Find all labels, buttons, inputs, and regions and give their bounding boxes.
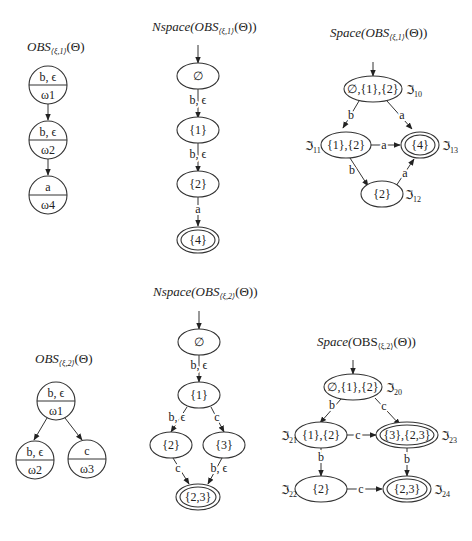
svg-text:b, ϵ: b, ϵ (211, 461, 228, 475)
svg-text:b, ϵ: b, ϵ (40, 125, 57, 139)
diagram-canvas: OBS⟨ξ,1⟩(Θ) b, ϵ ω1 b, ϵ ω2 a ω4 Nspace(… (0, 0, 472, 541)
title-obs-2: OBS⟨ξ,2⟩(Θ) (35, 351, 93, 368)
svg-text:ω2: ω2 (28, 463, 42, 477)
svg-text:ℑ12: ℑ12 (405, 188, 421, 204)
title-nspace-2: Nspace(OBS⟨ξ,2⟩(Θ)) (152, 284, 258, 301)
svg-text:{2}: {2} (189, 177, 207, 191)
svg-text:{3}: {3} (215, 438, 233, 452)
svg-text:a: a (399, 108, 405, 122)
svg-text:ω3: ω3 (80, 462, 94, 476)
svg-text:{2}: {2} (312, 482, 330, 496)
svg-text:ω2: ω2 (41, 143, 55, 157)
panel-space-1: Space(OBS⟨ξ,1⟩(Θ)) ∅,{1},{2} ℑ10 b a {1}… (305, 25, 458, 207)
svg-text:{1}: {1} (189, 123, 207, 137)
svg-text:{1},{2}: {1},{2} (302, 428, 340, 442)
svg-text:b, ϵ: b, ϵ (27, 445, 44, 459)
svg-text:c: c (214, 410, 219, 424)
svg-text:{4}: {4} (189, 233, 207, 247)
svg-text:c: c (84, 444, 89, 458)
svg-text:{4}: {4} (411, 138, 429, 152)
svg-text:c: c (381, 399, 386, 413)
svg-text:∅: ∅ (194, 335, 204, 349)
svg-text:{2,3}: {2,3} (185, 490, 212, 504)
svg-text:ℑ10: ℑ10 (406, 83, 422, 99)
obs-node-1: b, ϵ ω1 (29, 66, 67, 104)
svg-text:b, ϵ: b, ϵ (169, 410, 186, 424)
svg-text:b, ϵ: b, ϵ (191, 358, 208, 372)
svg-text:∅: ∅ (193, 69, 203, 83)
svg-text:ℑ22: ℑ22 (281, 483, 297, 499)
svg-text:ω4: ω4 (41, 198, 55, 212)
svg-text:a: a (195, 202, 201, 216)
title-space-1: Space(OBS⟨ξ,1⟩(Θ)) (330, 25, 427, 42)
title-obs-1: OBS⟨ξ,1⟩(Θ) (27, 39, 85, 56)
svg-text:c: c (358, 482, 363, 496)
svg-text:b: b (349, 163, 355, 177)
svg-text:ℑ13: ℑ13 (442, 139, 458, 155)
svg-text:∅,{1},{2}: ∅,{1},{2} (327, 380, 378, 394)
svg-text:{1}: {1} (190, 388, 208, 402)
obs-node-3: a ω4 (29, 176, 67, 214)
svg-text:b, ϵ: b, ϵ (48, 386, 65, 400)
svg-text:{1},{2}: {1},{2} (327, 138, 365, 152)
panel-space-2: Space(OBS⟨ξ,2⟩(Θ)) ∅,{1},{2} ℑ20 b c {1}… (281, 334, 457, 502)
svg-text:ℑ24: ℑ24 (434, 483, 450, 499)
svg-text:ℑ20: ℑ20 (386, 381, 402, 397)
svg-text:{2}: {2} (162, 438, 180, 452)
obs2-node-2: b, ϵ ω2 (16, 441, 54, 479)
svg-text:b, ϵ: b, ϵ (40, 70, 57, 84)
svg-text:ℑ23: ℑ23 (441, 429, 457, 445)
svg-text:c: c (355, 428, 360, 442)
obs-node-2: b, ϵ ω2 (29, 121, 67, 159)
svg-text:b, ϵ: b, ϵ (190, 147, 207, 161)
svg-text:{2}: {2} (373, 187, 391, 201)
svg-text:a: a (45, 180, 51, 194)
svg-text:{3},{2,3}: {3},{2,3} (383, 428, 430, 442)
obs2-node-3: c ω3 (68, 440, 106, 478)
svg-text:b: b (329, 398, 335, 412)
svg-text:b: b (348, 108, 354, 122)
title-nspace-1: Nspace(OBS⟨ξ,1⟩(Θ)) (151, 19, 257, 36)
svg-text:∅,{1},{2}: ∅,{1},{2} (347, 82, 398, 96)
svg-text:ℑ11: ℑ11 (305, 139, 321, 155)
svg-text:b: b (318, 450, 324, 464)
svg-text:b: b (404, 452, 410, 466)
svg-text:ω1: ω1 (49, 404, 63, 418)
svg-text:ω1: ω1 (41, 88, 55, 102)
svg-text:ℑ21: ℑ21 (281, 429, 297, 445)
obs2-node-1: b, ϵ ω1 (37, 382, 75, 420)
svg-text:{2,3}: {2,3} (394, 482, 421, 496)
svg-text:b, ϵ: b, ϵ (190, 93, 207, 107)
title-space-2: Space(OBS⟨ξ,2⟩(Θ)) (317, 334, 416, 351)
panel-obs-1: OBS⟨ξ,1⟩(Θ) b, ϵ ω1 b, ϵ ω2 a ω4 (27, 39, 85, 214)
svg-text:c: c (175, 461, 180, 475)
panel-obs-2: OBS⟨ξ,2⟩(Θ) b, ϵ ω1 b, ϵ ω2 c ω3 (16, 351, 106, 479)
svg-text:a: a (402, 166, 408, 180)
panel-nspace-2: Nspace(OBS⟨ξ,2⟩(Θ)) ∅ b, ϵ {1} b, ϵ c {2… (150, 284, 258, 510)
panel-nspace-1: Nspace(OBS⟨ξ,1⟩(Θ)) ∅ b, ϵ {1} b, ϵ {2} … (151, 19, 257, 253)
svg-text:a: a (381, 138, 387, 152)
